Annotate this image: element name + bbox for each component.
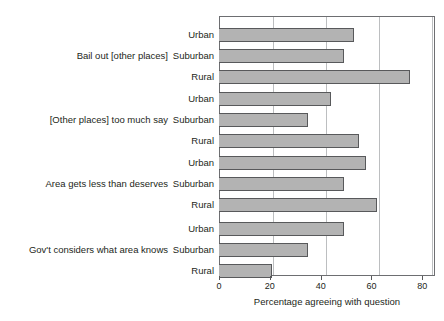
group-label-3: Area gets less than deserves [0,178,168,190]
x-tick-label-20: 20 [255,281,285,292]
x-tick-label-40: 40 [306,281,336,292]
category-label-rural: Rural [0,198,214,212]
x-tick-40 [321,276,322,280]
x-tick-80 [422,276,423,280]
group-label-4: Gov't considers what area knows [0,244,168,256]
group-label-2: [Other places] too much say [0,114,168,126]
x-tick-label-60: 60 [356,281,386,292]
x-tick-60 [371,276,372,280]
category-label-urban: Urban [0,222,214,236]
category-label-urban: Urban [0,28,214,42]
bar-chart: UrbanSuburbanRuralUrbanSuburbanRuralUrba… [0,0,444,321]
category-label-rural: Rural [0,134,214,148]
category-label-rural: Rural [0,70,214,84]
x-tick-label-80: 80 [407,281,437,292]
category-label-urban: Urban [0,92,214,106]
x-tick-0 [219,276,220,280]
x-axis-title: Percentage agreeing with question [219,296,435,307]
category-label-rural: Rural [0,264,214,278]
category-label-urban: Urban [0,156,214,170]
x-tick-label-0: 0 [204,281,234,292]
x-axis: 020406080 [219,276,435,296]
x-tick-20 [270,276,271,280]
group-label-1: Bail out [other places] [0,50,168,62]
